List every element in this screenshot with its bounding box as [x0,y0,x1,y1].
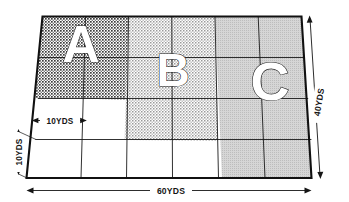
dim-cell-width-label: 10YDS [47,117,74,126]
region-letter-c: C [251,51,290,111]
dimension-cell-width: 10YDS [32,115,87,127]
region-letter-a: A [62,15,100,73]
dimension-cell-height: 10YDS [13,129,37,178]
dim-height-label: 40YDS [312,87,326,117]
dim-width-label: 60YDS [157,186,185,196]
dim-height-arrow-top [307,16,313,23]
dim-cell-height-label: 10YDS [15,138,24,165]
dim-height-arrow-bottom [317,172,323,179]
dim-cell-width-arrow-right [80,118,87,124]
dimension-width: 60YDS [27,184,312,197]
dim-width-arrow-left [27,188,34,194]
dim-width-arrow-right [305,188,312,194]
field-area-diagram: A B C 60YDS 40YDS [0,0,349,202]
region-letter-b: B [156,44,189,96]
diagram-canvas: A B C 60YDS 40YDS [0,0,349,202]
